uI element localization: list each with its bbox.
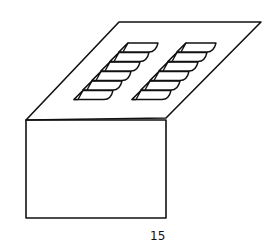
box-front-face — [26, 120, 166, 218]
diagram-canvas — [0, 0, 277, 245]
louver-group — [74, 43, 216, 100]
figure-number: 15 — [150, 229, 165, 243]
lid-panel — [26, 22, 261, 120]
